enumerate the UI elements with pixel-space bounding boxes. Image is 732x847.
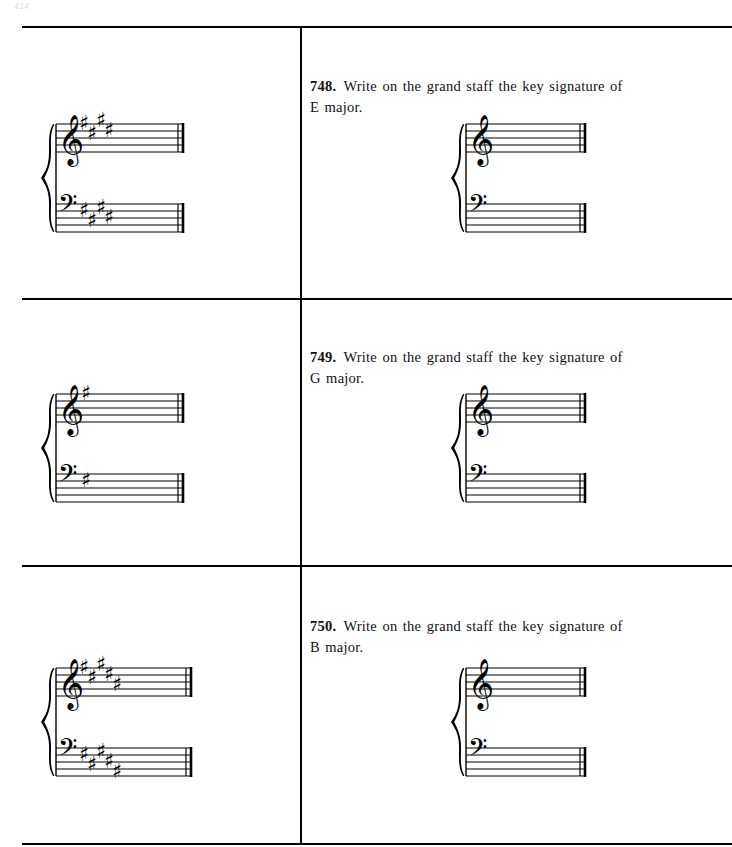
key-signature-treble: ♯ (81, 381, 91, 405)
question-subject-748: E major. (310, 97, 686, 117)
key-signature-bass: ♯ ♯ ♯ ♯ (79, 195, 114, 232)
svg-text:♯: ♯ (112, 672, 122, 696)
brace-icon (451, 668, 464, 776)
workbook-page: 424 748.Write on the grand staff the key… (0, 0, 732, 847)
question-subject-749: G major. (310, 368, 686, 388)
final-double-barline (580, 123, 585, 233)
key-signature-treble: ♯ ♯ ♯ ♯ (79, 108, 114, 145)
svg-text:♯: ♯ (104, 205, 114, 229)
bass-clef-icon: 𝄢 (58, 459, 77, 494)
question-748: 748.Write on the grand staff the key sig… (310, 76, 686, 117)
brace-icon (41, 394, 54, 502)
final-double-barline (178, 123, 183, 233)
question-749: 749.Write on the grand staff the key sig… (310, 347, 686, 388)
page-number: 424 (14, 1, 29, 11)
question-subject-750: B major. (310, 637, 686, 657)
brace-icon (451, 394, 464, 502)
question-prompt-750: Write on the grand staff the key signatu… (343, 618, 622, 634)
answer-grand-staff-749: 𝄞 𝄢 ♯ ♯ (40, 388, 190, 510)
question-number-749: 749. (310, 349, 336, 365)
svg-text:𝄞: 𝄞 (468, 383, 494, 437)
bass-clef-icon: 𝄢 (58, 189, 77, 224)
treble-clef-icon: 𝄞 (468, 383, 494, 437)
svg-text:♯: ♯ (104, 118, 114, 142)
svg-text:𝄢: 𝄢 (468, 189, 487, 224)
final-double-barline (580, 393, 585, 503)
blank-grand-staff-750[interactable]: 𝄞 𝄢 (450, 662, 592, 784)
question-prompt-749: Write on the grand staff the key signatu… (343, 349, 622, 365)
svg-text:𝄢: 𝄢 (58, 459, 77, 494)
key-signature-bass: ♯ (81, 468, 91, 492)
bass-clef-icon: 𝄢 (468, 733, 487, 768)
blank-grand-staff-748[interactable]: 𝄞 𝄢 (450, 118, 592, 240)
brace-icon (41, 668, 54, 776)
svg-text:𝄞: 𝄞 (468, 657, 494, 711)
question-number-748: 748. (310, 78, 336, 94)
svg-text:𝄢: 𝄢 (468, 459, 487, 494)
final-double-barline (580, 667, 585, 777)
svg-text:𝄢: 𝄢 (58, 733, 77, 768)
rule-third (22, 565, 732, 567)
question-number-750: 750. (310, 618, 336, 634)
svg-text:♯: ♯ (81, 468, 91, 492)
svg-text:𝄢: 𝄢 (468, 733, 487, 768)
bass-clef-icon: 𝄢 (58, 733, 77, 768)
svg-text:♯: ♯ (81, 381, 91, 405)
question-750: 750.Write on the grand staff the key sig… (310, 616, 686, 657)
question-prompt-748: Write on the grand staff the key signatu… (343, 78, 622, 94)
final-double-barline (178, 393, 183, 503)
rule-second (22, 298, 732, 300)
brace-icon (451, 124, 464, 232)
brace-icon (41, 124, 54, 232)
final-double-barline (186, 667, 191, 777)
blank-grand-staff-749[interactable]: 𝄞 𝄢 (450, 388, 592, 510)
bass-clef-icon: 𝄢 (468, 459, 487, 494)
svg-text:𝄞: 𝄞 (468, 113, 494, 167)
rule-top (22, 26, 732, 28)
answer-grand-staff-750: 𝄞 𝄢 ♯ ♯ ♯ ♯ ♯ ♯ ♯ ♯ ♯ ♯ (40, 662, 200, 784)
svg-text:𝄢: 𝄢 (58, 189, 77, 224)
rule-bottom (22, 843, 732, 845)
bass-clef-icon: 𝄢 (468, 189, 487, 224)
answer-grand-staff-748: 𝄞 𝄢 ♯ ♯ ♯ ♯ ♯ ♯ ♯ ♯ (40, 118, 190, 240)
column-divider (300, 26, 302, 844)
svg-text:♯: ♯ (112, 759, 122, 783)
treble-clef-icon: 𝄞 (468, 657, 494, 711)
treble-clef-icon: 𝄞 (468, 113, 494, 167)
